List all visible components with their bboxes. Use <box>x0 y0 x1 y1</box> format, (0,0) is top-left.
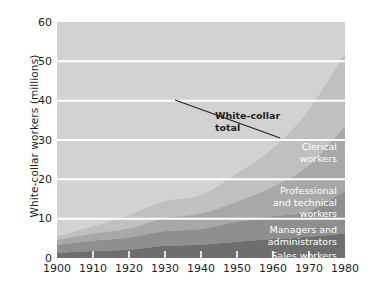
band-label-professional-and-technical-workers: Professional and technical workers <box>273 185 337 220</box>
band-label-sales-workers: Sales workers <box>271 250 337 258</box>
x-tick-1910: 1910 <box>73 263 113 274</box>
x-tick-1940: 1940 <box>181 263 221 274</box>
stacked-area-svg <box>57 22 345 258</box>
plot-area: Clerical workers Professional and techni… <box>57 22 345 258</box>
x-tick-1970: 1970 <box>289 263 329 274</box>
x-tick-1900: 1900 <box>37 263 77 274</box>
band-label-clerical-workers: Clerical workers <box>300 141 337 164</box>
white-collar-workers-area-chart: White-collar workers (millions) 60 50 40… <box>0 0 372 297</box>
band-label-managers-and-administrators: Managers and administrators <box>268 224 337 247</box>
x-tick-1950: 1950 <box>217 263 257 274</box>
x-tick-1960: 1960 <box>253 263 293 274</box>
x-tick-1930: 1930 <box>145 263 185 274</box>
annotation-white-collar-total: White-collar total <box>215 110 280 133</box>
x-tick-1920: 1920 <box>109 263 149 274</box>
x-tick-1980: 1980 <box>325 263 365 274</box>
